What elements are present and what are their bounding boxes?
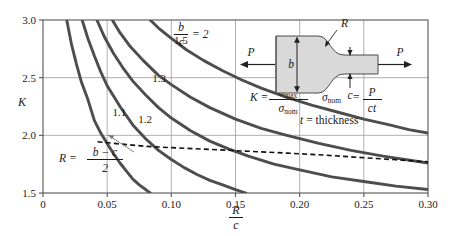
curve-label-1-3: 1.3 [152, 72, 166, 84]
x-axis-label-denominator: c [233, 218, 239, 232]
radius-label: R [340, 17, 348, 29]
x-tick-label: 0.30 [418, 198, 438, 210]
ratio-denominator: c [178, 36, 183, 48]
r-definition-denominator: 2 [102, 162, 108, 174]
x-tick-label: 0.10 [162, 198, 182, 210]
curve-label-1-2: 1.2 [138, 113, 152, 125]
y-tick-label: 2.5 [22, 72, 36, 84]
ratio-numerator: b [178, 21, 184, 33]
r-definition-numerator: b − c [93, 146, 117, 158]
y-tick-label: 2.0 [22, 129, 36, 141]
dimension-label-c: c [347, 89, 352, 101]
x-tick-label: 0 [40, 198, 46, 210]
sigma-nom-formula-numerator: P [367, 86, 375, 98]
sigma-nom-formula-denominator: ct [368, 102, 377, 114]
curve-label-1-1: 1.1 [112, 106, 126, 118]
x-tick-label: 0.25 [354, 198, 374, 210]
sigma-nom-formula-equals: = [353, 91, 360, 103]
stress-concentration-chart: 00.050.100.150.200.250.301.52.02.53.0KRc… [0, 0, 451, 236]
x-axis-label-numerator: R [231, 203, 240, 217]
ratio-equals-two: = 2 [192, 28, 209, 40]
y-tick-label: 1.5 [22, 187, 36, 199]
k-formula-lhs: K = [249, 91, 268, 103]
y-axis-label: K [17, 95, 27, 109]
dimension-label-b: b [288, 58, 294, 70]
figure-root: 00.050.100.150.200.250.301.52.02.53.0KRc… [0, 0, 451, 236]
r-definition-lhs: R = [58, 152, 77, 164]
y-tick-label: 3.0 [22, 14, 36, 26]
load-label-left: P [246, 46, 254, 58]
x-tick-label: 0.05 [98, 198, 118, 210]
load-label-right: P [395, 46, 403, 58]
x-tick-label: 0.20 [290, 198, 310, 210]
thickness-note: t= thickness [300, 114, 359, 126]
